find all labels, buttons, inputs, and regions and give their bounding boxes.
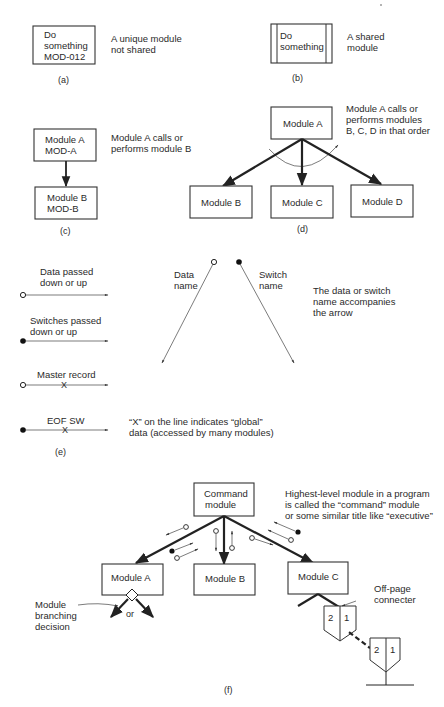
- box-line: Do: [44, 29, 56, 40]
- caption: (b): [292, 73, 303, 83]
- couple-arrow: [180, 549, 198, 557]
- open-circle-icon: [250, 536, 255, 541]
- open-circle-icon: [230, 546, 235, 551]
- data-name-label: name: [174, 280, 198, 291]
- box-line: something: [44, 40, 88, 51]
- open-circle-icon: [175, 556, 180, 561]
- switch-name-label: Switch: [259, 269, 287, 280]
- global-x-marker: X: [61, 380, 67, 390]
- description-line: Module A calls or: [111, 132, 183, 143]
- box-label: Module A: [111, 572, 151, 583]
- note-line: The data or switch: [313, 285, 391, 296]
- switch-name-label: name: [259, 280, 283, 291]
- pointer-arrow: [78, 604, 118, 606]
- description-line: Module A calls or: [346, 103, 418, 114]
- stray-mark: [380, 4, 382, 6]
- description-line: A unique module: [111, 33, 182, 44]
- legend-label: Data passed: [40, 266, 93, 277]
- open-circle-icon: [184, 525, 189, 530]
- box-label: Module C: [298, 571, 339, 582]
- legend-label: down or up: [40, 277, 87, 288]
- caption: (d): [297, 224, 308, 234]
- description-line: performs modules: [346, 114, 422, 125]
- open-circle-icon: [289, 538, 294, 543]
- legend-label: down or up: [30, 326, 77, 337]
- section-c-call-relationship: Module A MOD-A Module B MOD-B Module A c…: [34, 129, 191, 236]
- branch-label: branching: [35, 610, 77, 621]
- section-d-ordered-calls: Module A Module B Module C Module D Modu…: [190, 103, 430, 234]
- structure-chart-diagram: Do something MOD-012 A unique module not…: [0, 0, 444, 707]
- section-b-shared-module: Do something A shared module (b): [271, 24, 385, 83]
- call-arrow-c: [224, 516, 313, 563]
- filled-circle-icon: [236, 259, 242, 265]
- legend-label: Master record: [37, 369, 96, 380]
- filled-circle-icon: [20, 338, 26, 344]
- call-arrow-a: [136, 516, 224, 563]
- section-f-full-structure: Command module Highest-level module in a…: [35, 483, 433, 695]
- description-line: module: [347, 42, 378, 53]
- caption: (c): [60, 226, 71, 236]
- filled-circle-icon: [295, 529, 300, 534]
- note-line: or some similar title like “executive”: [285, 510, 433, 521]
- section-e-data-legend: Data passed down or up Switches passed d…: [20, 259, 395, 457]
- description-line: B, C, D in that order: [346, 125, 430, 136]
- note-line: name accompanies: [313, 296, 396, 307]
- description-line: not shared: [111, 44, 156, 55]
- branch-label: decision: [35, 621, 70, 632]
- branch-label: Module: [35, 599, 66, 610]
- note-line: data (accessed by many modules): [129, 427, 274, 438]
- description-line: A shared: [347, 31, 385, 42]
- box-label: Module C: [282, 197, 323, 208]
- box-line: Module A: [45, 134, 85, 145]
- open-circle-icon: [20, 382, 25, 387]
- connector-number: 2: [328, 612, 333, 623]
- note-line: is called the “command” module: [285, 499, 420, 510]
- connector-line: [298, 594, 318, 606]
- description-line: performs module B: [111, 143, 191, 154]
- box-line: MOD-012: [44, 51, 85, 62]
- call-arrow-d: [302, 139, 381, 184]
- caption: (a): [58, 75, 69, 85]
- note-line: “X” on the line indicates “global”: [129, 416, 263, 427]
- connector-number: 1: [344, 612, 349, 623]
- legend-label: Switches passed: [30, 315, 101, 326]
- box-line: module: [205, 499, 236, 510]
- note-line: the arrow: [313, 307, 353, 318]
- offpage-dashed-link: [349, 632, 370, 648]
- box-label: Module D: [362, 196, 403, 207]
- couple-arrow: [175, 543, 193, 550]
- or-label: or: [126, 609, 134, 619]
- couple-arrow: [166, 528, 183, 535]
- order-arc: [269, 145, 338, 167]
- open-circle-icon: [211, 259, 216, 264]
- filled-circle-icon: [169, 548, 174, 553]
- couple-arrow: [268, 530, 288, 539]
- pointer-arrow: [342, 601, 356, 606]
- caption: (f): [224, 685, 233, 695]
- box-line: Do: [280, 30, 292, 41]
- data-name-label: Data: [174, 269, 195, 280]
- box-line: Module B: [47, 192, 87, 203]
- box-label: Module B: [201, 197, 241, 208]
- box-label: Module A: [283, 118, 323, 129]
- caption: (e): [55, 447, 66, 457]
- couple-arrow: [274, 522, 295, 531]
- global-x-marker: X: [62, 425, 68, 435]
- open-circle-icon: [214, 529, 219, 534]
- box-line: MOD-A: [45, 145, 77, 156]
- connector-number: 2: [374, 644, 379, 655]
- box-label: Module B: [205, 573, 245, 584]
- offpage-label: connecter: [374, 594, 416, 605]
- call-arrow-b: [223, 139, 302, 186]
- filled-circle-icon: [20, 427, 26, 433]
- connector-number: 1: [390, 644, 395, 655]
- box-line: Command: [204, 488, 248, 499]
- box-line: MOD-B: [47, 203, 79, 214]
- section-a-unique-module: Do something MOD-012 A unique module not…: [33, 26, 182, 85]
- note-line: Highest-level module in a program: [285, 488, 430, 499]
- box-line: something: [280, 41, 324, 52]
- branch-arrow-right: [136, 599, 153, 617]
- offpage-label: Off-page: [374, 583, 411, 594]
- open-circle-icon: [20, 292, 25, 297]
- connector-line: [318, 594, 339, 607]
